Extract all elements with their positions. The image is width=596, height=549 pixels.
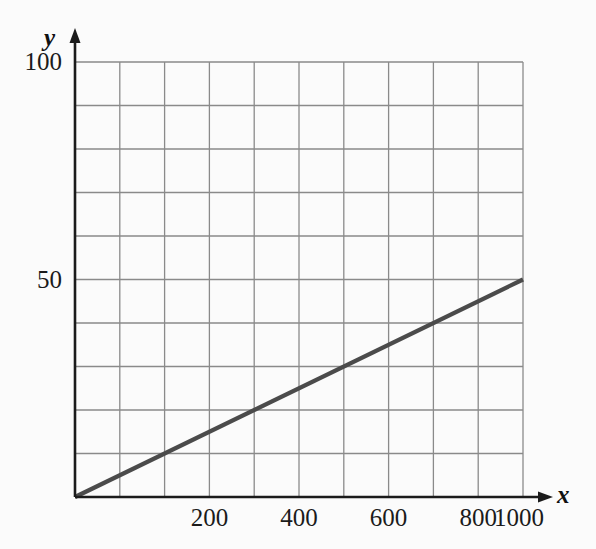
y-axis — [70, 28, 81, 497]
x-tick-label-400: 400 — [280, 504, 318, 532]
y-tick-label-100: 100 — [12, 48, 62, 76]
x-tick-label-1000: 1000 — [494, 504, 544, 532]
x-axis — [75, 492, 553, 503]
x-tick-label-200: 200 — [191, 504, 229, 532]
line-chart: 100 50 200 400 600 800 1000 y x — [0, 0, 596, 549]
x-tick-label-800: 800 — [459, 504, 497, 532]
x-tick-label-600: 600 — [370, 504, 408, 532]
y-tick-label-50: 50 — [12, 266, 62, 294]
plot-area — [0, 0, 596, 549]
x-axis-label: x — [557, 481, 570, 509]
y-axis-label: y — [44, 24, 55, 52]
